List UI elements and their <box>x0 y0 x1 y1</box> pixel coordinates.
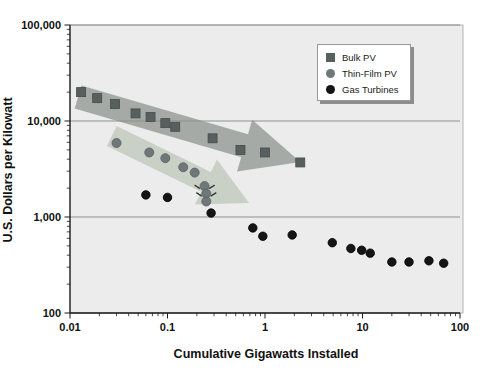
data-point-circle <box>249 224 258 233</box>
data-point-circle <box>190 168 199 177</box>
data-point-circle <box>202 197 211 206</box>
data-point-circle <box>161 154 170 163</box>
data-point-square <box>111 100 120 109</box>
legend-label: Bulk PV <box>342 52 376 63</box>
data-point-circle <box>405 258 414 267</box>
data-point-square <box>208 134 217 143</box>
chart-canvas: 0.010.1110100100,00010,0001,000100 <box>0 0 485 378</box>
data-point-circle <box>366 249 375 258</box>
data-point-circle <box>328 238 337 247</box>
square-marker-icon <box>326 53 335 62</box>
circle-marker-icon <box>326 85 335 94</box>
x-axis-title: Cumulative Gigawatts Installed <box>70 347 462 361</box>
data-point-circle <box>357 246 366 255</box>
data-point-square <box>93 94 102 103</box>
y-axis-title: U.S. Dollars per Kilowatt <box>1 40 15 300</box>
x-tick-label: 10 <box>356 321 368 333</box>
data-point-square <box>146 113 155 122</box>
y-tick-label: 10,000 <box>27 115 61 127</box>
x-tick-label: 0.01 <box>59 321 80 333</box>
learning-curve-chart: 0.010.1110100100,00010,0001,000100 U.S. … <box>0 0 485 378</box>
data-point-square <box>171 122 180 131</box>
data-point-square <box>131 109 140 118</box>
data-point-square <box>236 145 245 154</box>
legend-label: Thin-Film PV <box>342 68 397 79</box>
data-point-circle <box>179 163 188 172</box>
data-point-circle <box>425 257 434 266</box>
data-point-circle <box>145 148 154 157</box>
data-point-circle <box>347 244 356 253</box>
circle-marker-icon <box>326 69 335 78</box>
data-point-circle <box>288 231 297 240</box>
legend-item: Thin-Film PV <box>318 65 410 81</box>
data-point-square <box>261 148 270 157</box>
data-point-square <box>161 119 170 128</box>
x-tick-label: 1 <box>262 321 268 333</box>
y-tick-label: 100,000 <box>21 19 61 31</box>
x-tick-label: 0.1 <box>160 321 175 333</box>
x-tick-label: 100 <box>451 321 469 333</box>
data-point-circle <box>439 259 448 268</box>
data-point-square <box>77 88 86 97</box>
y-tick-label: 100 <box>43 307 61 319</box>
data-point-circle <box>207 209 216 218</box>
data-point-circle <box>142 191 151 200</box>
legend-item: Bulk PV <box>318 49 410 65</box>
data-point-circle <box>259 232 268 241</box>
legend-item: Gas Turbines <box>318 81 410 97</box>
data-point-square <box>296 158 305 167</box>
data-point-circle <box>163 193 172 202</box>
y-tick-label: 1,000 <box>33 211 61 223</box>
legend-label: Gas Turbines <box>342 84 399 95</box>
data-point-circle <box>112 138 121 147</box>
legend-box: Bulk PVThin-Film PVGas Turbines <box>317 44 411 101</box>
data-point-circle <box>388 258 397 267</box>
